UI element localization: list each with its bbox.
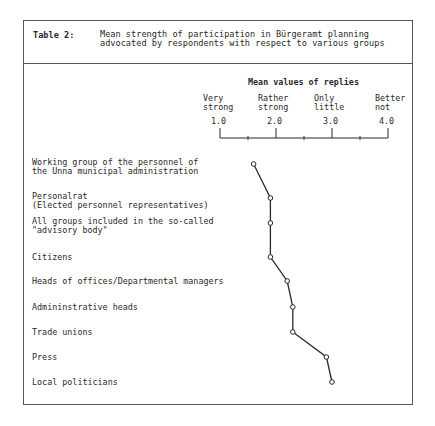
data-point-marker: [330, 380, 335, 385]
data-point-marker: [324, 355, 329, 360]
profile-chart: [0, 0, 435, 426]
data-point-marker: [268, 221, 273, 226]
data-point-marker: [291, 330, 296, 335]
data-point-marker: [268, 196, 273, 201]
profile-line: [254, 164, 332, 382]
data-point-marker: [291, 305, 296, 310]
data-point-marker: [268, 255, 273, 260]
data-point-marker: [285, 279, 290, 284]
data-point-marker: [251, 162, 256, 167]
